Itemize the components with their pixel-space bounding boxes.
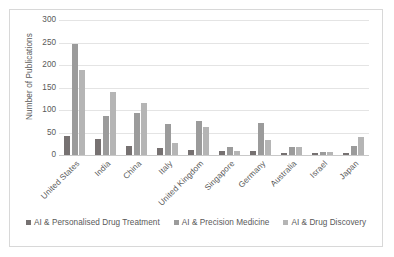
bar[interactable] — [343, 153, 349, 155]
bar[interactable] — [219, 151, 225, 155]
bar-group — [152, 20, 183, 155]
y-axis-tick-100: 100 — [30, 106, 56, 114]
y-axis-tick-150: 150 — [30, 83, 56, 91]
bar[interactable] — [141, 103, 147, 155]
bar[interactable] — [296, 147, 302, 155]
bar[interactable] — [289, 147, 295, 155]
bar-group — [59, 20, 90, 155]
bar-groups — [59, 20, 369, 155]
bar[interactable] — [250, 151, 256, 155]
bar-group — [307, 20, 338, 155]
bar[interactable] — [281, 153, 287, 155]
x-label-cell: India — [90, 156, 121, 214]
bar[interactable] — [157, 148, 163, 155]
legend-item[interactable]: AI & Personalised Drug Treatment — [26, 218, 160, 227]
bar-group — [183, 20, 214, 155]
legend-label: AI & Personalised Drug Treatment — [34, 218, 160, 227]
bar[interactable] — [72, 44, 78, 155]
bar[interactable] — [351, 146, 357, 155]
bar-group — [214, 20, 245, 155]
bar[interactable] — [134, 113, 140, 155]
bar[interactable] — [265, 140, 271, 155]
bar[interactable] — [110, 92, 116, 155]
x-label-cell: Australia — [276, 156, 307, 214]
bar[interactable] — [79, 70, 85, 155]
x-axis-label: Israel — [308, 159, 329, 180]
bar[interactable] — [95, 139, 101, 155]
legend-label: AI & Drug Discovery — [291, 218, 366, 227]
legend-swatch-icon — [174, 220, 179, 225]
bar[interactable] — [188, 150, 194, 155]
bar[interactable] — [234, 151, 240, 155]
bar-group — [121, 20, 152, 155]
y-axis-tick-250: 250 — [30, 38, 56, 46]
chart-container: Number of Publications 05010015020025030… — [9, 9, 383, 247]
bar[interactable] — [196, 121, 202, 155]
bar[interactable] — [227, 147, 233, 155]
legend-swatch-icon — [26, 220, 31, 225]
x-axis-label: United States — [39, 159, 81, 201]
bar-group — [90, 20, 121, 155]
x-label-cell: Japan — [338, 156, 369, 214]
bar[interactable] — [203, 127, 209, 155]
bar[interactable] — [312, 153, 318, 155]
bar[interactable] — [126, 146, 132, 155]
bar-group — [276, 20, 307, 155]
x-axis-label: India — [93, 159, 112, 178]
bar[interactable] — [172, 143, 178, 155]
x-label-cell: United States — [59, 156, 90, 214]
x-axis-label: China — [121, 159, 143, 181]
y-axis-tick-50: 50 — [30, 128, 56, 136]
plot-area: Number of Publications 05010015020025030… — [10, 10, 382, 246]
bar[interactable] — [258, 123, 264, 155]
y-axis-tick-labels: 050100150200250300 — [30, 20, 56, 155]
y-axis-tick-0: 0 — [30, 151, 56, 159]
bar[interactable] — [358, 137, 364, 155]
x-label-cell: China — [121, 156, 152, 214]
bar[interactable] — [327, 152, 333, 155]
legend-item[interactable]: AI & Precision Medicine — [174, 218, 270, 227]
bar[interactable] — [165, 124, 171, 155]
bar[interactable] — [64, 136, 70, 155]
bar-group — [245, 20, 276, 155]
bar[interactable] — [103, 116, 109, 155]
x-label-cell: Israel — [307, 156, 338, 214]
x-axis-tick-labels: United StatesIndiaChinaItalyUnited Kingd… — [59, 156, 369, 214]
y-axis-tick-300: 300 — [30, 16, 56, 24]
x-axis-label: Italy — [157, 159, 174, 176]
chart-legend: AI & Personalised Drug TreatmentAI & Pre… — [10, 218, 382, 227]
legend-swatch-icon — [283, 220, 288, 225]
legend-label: AI & Precision Medicine — [182, 218, 270, 227]
x-axis-label: Japan — [337, 159, 359, 181]
bar-group — [338, 20, 369, 155]
bar[interactable] — [320, 152, 326, 155]
legend-item[interactable]: AI & Drug Discovery — [283, 218, 366, 227]
y-axis-tick-200: 200 — [30, 61, 56, 69]
